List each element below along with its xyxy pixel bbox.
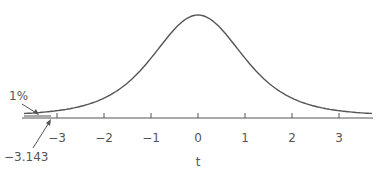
arrowhead-icon — [46, 119, 51, 126]
tick-label: −2 — [95, 131, 113, 145]
tick-label: −3 — [48, 131, 66, 145]
x-axis-ticks — [57, 113, 339, 118]
tick-label: −1 — [142, 131, 160, 145]
x-axis-label: t — [196, 155, 201, 169]
tick-label: 0 — [194, 131, 202, 145]
t-distribution-chart: −3 −2 −1 0 1 2 3 t 1% −3.143 — [0, 0, 384, 188]
tick-label: 3 — [335, 131, 343, 145]
x-axis-tick-labels: −3 −2 −1 0 1 2 3 — [48, 131, 343, 145]
density-curve — [24, 15, 372, 114]
critical-value-label: −3.143 — [4, 150, 48, 164]
tail-percent-label: 1% — [9, 89, 28, 103]
tick-label: 2 — [288, 131, 296, 145]
tick-label: 1 — [241, 131, 249, 145]
